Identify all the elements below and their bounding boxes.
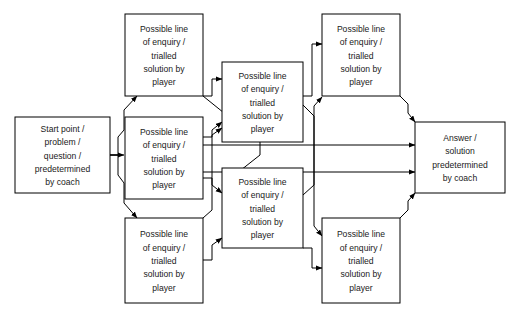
edge-branch3-to-branch5 <box>203 238 222 260</box>
branch-node-1-label-line: player <box>152 77 176 87</box>
branch-node-3-label-line: solution by <box>143 269 185 279</box>
branch-node-6-label-line: solution by <box>340 64 382 74</box>
branch-node-2-label-line: of enquiry / <box>143 140 186 150</box>
start-node-label-line: Start point / <box>41 124 86 134</box>
edge-branch5-to-branch6 <box>303 97 322 195</box>
start-node-label-line: predetermined <box>35 164 91 174</box>
answer-node-label-line: Answer / <box>443 133 477 143</box>
branch-node-4[interactable]: Possible lineof enquiry /trialledsolutio… <box>222 62 303 142</box>
branch-node-4-label-line: solution by <box>242 111 284 121</box>
branch-node-2[interactable]: Possible lineof enquiry /trialledsolutio… <box>125 117 203 199</box>
branch-node-7-label-line: player <box>349 283 373 293</box>
branch-node-4-label-line: Possible line <box>238 71 286 81</box>
answer-node-label-line: predetermined <box>432 160 488 170</box>
branch-node-1-label-line: solution by <box>143 64 185 74</box>
branch-node-5-label-line: solution by <box>242 217 284 227</box>
branch-node-3[interactable]: Possible lineof enquiry /trialledsolutio… <box>125 218 203 303</box>
branch-node-2-label-line: trialled <box>151 154 177 164</box>
edge-branch6-to-answer <box>400 96 415 122</box>
branch-node-2-label-line: player <box>152 180 176 190</box>
branch-node-6-label-line: trialled <box>348 51 374 61</box>
edge-branch1-to-branch4 <box>203 79 222 96</box>
branch-node-2-label-line: solution by <box>143 167 185 177</box>
answer-node-label-line: by coach <box>443 173 478 183</box>
branch-node-4-label-line: trialled <box>250 98 276 108</box>
answer-node[interactable]: Answer /solutionpredeterminedby coach <box>415 122 505 193</box>
branch-node-4-label-line: of enquiry / <box>241 84 284 94</box>
branch-node-7-label-line: trialled <box>348 256 374 266</box>
start-node[interactable]: Start point /problem /question /predeter… <box>15 117 110 193</box>
edge-branch5-to-branch7 <box>303 248 322 268</box>
edge-branch4-to-branch7 <box>303 105 322 236</box>
branch-node-5-label-line: Possible line <box>238 177 286 187</box>
branch-node-5-label-line: of enquiry / <box>241 190 284 200</box>
branch-node-5-label-line: trialled <box>250 204 276 214</box>
branch-node-6-label-line: of enquiry / <box>340 37 383 47</box>
branch-node-7[interactable]: Possible lineof enquiry /trialledsolutio… <box>322 218 400 303</box>
branch-node-1-label-line: trialled <box>151 51 177 61</box>
node-layer: Start point /problem /question /predeter… <box>15 14 505 303</box>
branch-node-6-label-line: Possible line <box>337 24 385 34</box>
branch-node-4-label-line: player <box>251 124 275 134</box>
flow-diagram-canvas: Start point /problem /question /predeter… <box>0 0 522 320</box>
branch-node-5[interactable]: Possible lineof enquiry /trialledsolutio… <box>222 168 303 248</box>
flow-diagram: Start point /problem /question /predeter… <box>0 0 522 320</box>
branch-node-3-label-line: player <box>152 283 176 293</box>
branch-node-7-label-line: solution by <box>340 269 382 279</box>
branch-node-1[interactable]: Possible lineof enquiry /trialledsolutio… <box>125 14 203 96</box>
start-node-label-line: problem / <box>45 137 81 147</box>
branch-node-3-label-line: of enquiry / <box>143 243 186 253</box>
branch-node-6[interactable]: Possible lineof enquiry /trialledsolutio… <box>322 14 400 96</box>
start-node-label-line: by coach <box>45 177 80 187</box>
branch-node-1-label-line: of enquiry / <box>143 37 186 47</box>
edge-branch3-to-branch4 <box>203 128 222 218</box>
branch-node-3-label-line: trialled <box>151 256 177 266</box>
branch-node-3-label-line: Possible line <box>140 229 188 239</box>
branch-node-6-label-line: player <box>349 77 373 87</box>
start-node-label-line: question / <box>44 151 82 161</box>
edge-branch7-to-answer <box>400 193 415 218</box>
edge-branch4-to-branch6 <box>303 44 322 96</box>
branch-node-7-label-line: of enquiry / <box>340 243 383 253</box>
branch-node-1-label-line: Possible line <box>140 24 188 34</box>
branch-node-2-label-line: Possible line <box>140 127 188 137</box>
branch-node-5-label-line: player <box>251 230 275 240</box>
branch-node-7-label-line: Possible line <box>337 229 385 239</box>
answer-node-label-line: solution <box>445 146 475 156</box>
